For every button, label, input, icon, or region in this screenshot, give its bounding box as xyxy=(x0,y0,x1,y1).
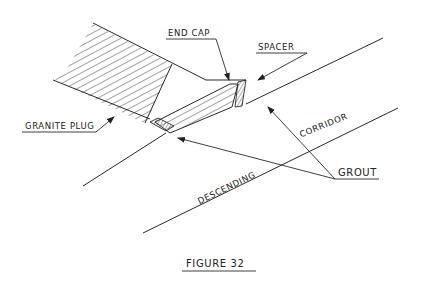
granite-plug-shape xyxy=(150,80,246,133)
corridor-middle-wall xyxy=(83,133,166,186)
spacer-leader xyxy=(256,53,307,80)
label-end-cap: End Cap xyxy=(168,28,210,38)
figure-caption: Figure 32 xyxy=(186,258,244,269)
grout-leader-lower xyxy=(178,138,335,179)
label-granite-plug: Granite Plug xyxy=(25,121,95,131)
label-grout: Grout xyxy=(338,167,377,178)
label-spacer: Spacer xyxy=(258,42,294,52)
end-cap-leader xyxy=(166,39,229,80)
diagram-canvas xyxy=(0,0,423,281)
